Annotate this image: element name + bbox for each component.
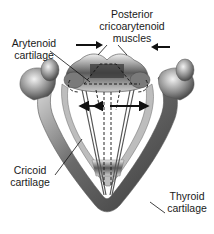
label-cricoid-cartilage: Cricoid cartilage [6, 164, 54, 188]
arytenoid-cartilage-shape [64, 54, 150, 92]
label-line: cartilage [4, 49, 64, 61]
label-line: Arytenoid [4, 37, 64, 49]
label-thyroid-cartilage: Thyroid cartilage [163, 190, 211, 214]
label-line: Thyroid [163, 190, 211, 202]
label-line: cartilage [6, 176, 54, 188]
label-arytenoid-cartilage: Arytenoid cartilage [4, 37, 64, 61]
label-line: muscles [88, 32, 176, 44]
right-inward-arrow-icon [151, 43, 170, 51]
label-line: cartilage [163, 202, 211, 214]
label-line: Posterior [88, 8, 176, 20]
label-line: Cricoid [6, 164, 54, 176]
label-line: cricoarytenoid [88, 20, 176, 32]
label-posterior-cricoarytenoid-muscles: Posterior cricoarytenoid muscles [88, 8, 176, 44]
